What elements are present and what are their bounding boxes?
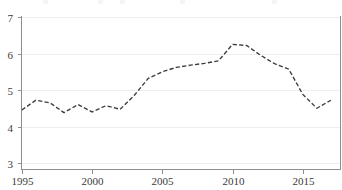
y-tick-label: 5 <box>8 85 14 97</box>
x-tick-label: 1995 <box>12 175 35 187</box>
x-tick-label: 2010 <box>223 175 246 187</box>
gridlines <box>22 18 340 164</box>
x-tick-label: 2000 <box>82 175 105 187</box>
x-tick-labels: 19952000200520102015 <box>12 175 316 187</box>
x-tick-label: 2005 <box>152 175 175 187</box>
y-tick-labels: 34567 <box>8 12 14 170</box>
y-tick-label: 4 <box>8 122 14 134</box>
y-tick-label: 6 <box>8 49 14 61</box>
x-axis-ticks <box>23 170 304 174</box>
line-chart: 34567 19952000200520102015 <box>0 0 342 190</box>
y-tick-label: 3 <box>8 158 14 170</box>
x-tick-label: 2015 <box>293 175 316 187</box>
y-tick-label: 7 <box>8 12 14 24</box>
chart-canvas: 34567 19952000200520102015 <box>0 0 342 190</box>
